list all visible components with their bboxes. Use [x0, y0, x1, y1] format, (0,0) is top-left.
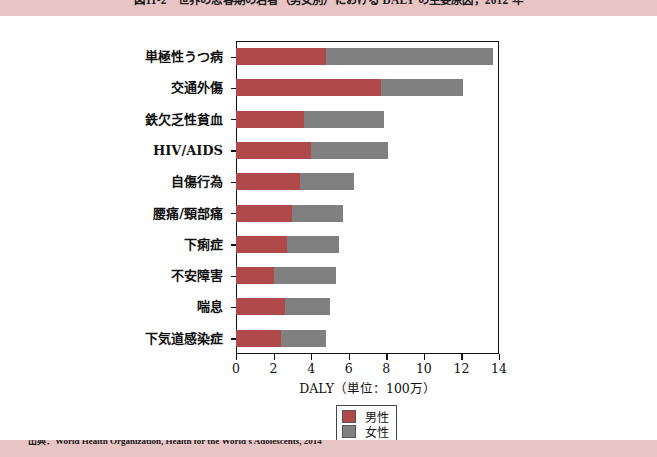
y-axis-label: HIV/AIDS: [153, 135, 223, 166]
stacked-bar: [236, 142, 388, 159]
bar-segment-male: [236, 267, 274, 284]
y-axis-category-labels: 単極性うつ病交通外傷鉄欠乏性貧血HIV/AIDS自傷行為腰痛/頸部痛下痢症不安障…: [0, 41, 231, 354]
bar-row: [236, 135, 499, 166]
source-note-strip: 出典：World Health Organization, Health for…: [0, 440, 657, 457]
bar-segment-female: [292, 205, 343, 222]
x-axis-tick: [424, 354, 425, 360]
bar-segment-female: [287, 236, 340, 253]
bar-row: [236, 323, 499, 354]
bar-row: [236, 198, 499, 229]
stacked-bar: [236, 173, 354, 190]
y-axis-label: 腰痛/頸部痛: [153, 198, 223, 229]
x-axis-tick: [499, 354, 500, 360]
bar-segment-male: [236, 48, 326, 65]
bar-segment-male: [236, 173, 300, 190]
y-axis-label: 単極性うつ病: [145, 41, 223, 72]
bar-segment-male: [236, 142, 311, 159]
x-axis-title: DALY（単位：100万）: [236, 378, 499, 397]
x-axis-tick: [349, 354, 350, 360]
legend-entry: 女性: [342, 424, 389, 439]
figure-title-strip: 図11-2 世界の思春期の若者（男女別）における DALY の主要原因，2012…: [0, 0, 657, 16]
x-axis-tick: [386, 354, 387, 360]
stacked-bar: [236, 205, 343, 222]
x-axis-tick-label: 6: [345, 361, 353, 376]
x-axis-tick-label: 0: [232, 361, 240, 376]
x-axis-tick: [274, 354, 275, 360]
bar-segment-male: [236, 236, 287, 253]
y-axis-label: 下痢症: [184, 229, 223, 260]
bar-segment-male: [236, 111, 304, 128]
y-axis-label: 交通外傷: [171, 72, 223, 103]
bar-segment-female: [381, 79, 464, 96]
stacked-bar: [236, 267, 336, 284]
bar-row: [236, 72, 499, 103]
x-axis-tick: [311, 354, 312, 360]
bar-segment-female: [300, 173, 354, 190]
bar-segment-female: [281, 330, 326, 347]
bar-rows: [236, 41, 499, 354]
x-axis-tick-label: 8: [382, 361, 390, 376]
stacked-bar: [236, 236, 339, 253]
bar-segment-male: [236, 205, 292, 222]
bar-row: [236, 41, 499, 72]
bar-segment-female: [285, 298, 330, 315]
y-axis-label: 下気道感染症: [145, 323, 223, 354]
source-note: 出典：World Health Organization, Health for…: [28, 440, 657, 446]
stacked-bar: [236, 330, 326, 347]
legend-swatch-male: [342, 410, 356, 423]
x-axis-tick: [461, 354, 462, 360]
x-axis-tick-label: 2: [270, 361, 278, 376]
y-axis-label: 自傷行為: [171, 166, 223, 197]
y-axis-label: 鉄欠乏性貧血: [145, 104, 223, 135]
x-axis-tick: [236, 354, 237, 360]
chart-legend: 男性女性: [336, 405, 397, 443]
stacked-bar: [236, 48, 493, 65]
bar-segment-male: [236, 298, 285, 315]
page-title: 図11-2 世界の思春期の若者（男女別）における DALY の主要原因，2012…: [0, 0, 657, 5]
bar-segment-female: [311, 142, 388, 159]
chart-figure: 単極性うつ病交通外傷鉄欠乏性貧血HIV/AIDS自傷行為腰痛/頸部痛下痢症不安障…: [0, 16, 657, 440]
bar-segment-female: [274, 267, 336, 284]
x-axis-tick-label: 12: [453, 361, 469, 376]
bar-segment-male: [236, 330, 281, 347]
legend-swatch-female: [342, 425, 356, 438]
bar-row: [236, 229, 499, 260]
stacked-bar: [236, 79, 463, 96]
bar-segment-female: [304, 111, 385, 128]
bar-segment-female: [326, 48, 493, 65]
stacked-bar: [236, 111, 384, 128]
y-axis-label: 喘息: [197, 291, 223, 322]
bar-row: [236, 260, 499, 291]
bar-segment-male: [236, 79, 381, 96]
stacked-bar: [236, 298, 330, 315]
y-axis-label: 不安障害: [171, 260, 223, 291]
x-axis-tick-label: 4: [307, 361, 315, 376]
legend-entry: 男性: [342, 409, 389, 424]
bar-row: [236, 104, 499, 135]
x-axis-tick-label: 14: [491, 361, 507, 376]
legend-label-female: 女性: [365, 423, 389, 440]
bar-row: [236, 291, 499, 322]
x-axis-tick-label: 10: [416, 361, 432, 376]
bar-row: [236, 166, 499, 197]
